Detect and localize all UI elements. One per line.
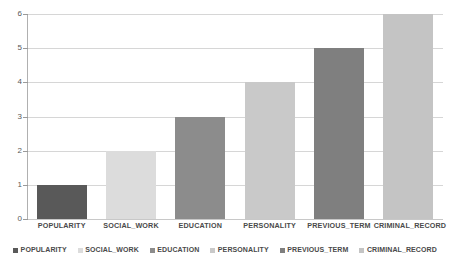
y-tick-label-5: 5 [2, 44, 22, 52]
legend-label: PERSONALITY [218, 246, 269, 254]
x-tick-label-criminal-record: CRIMINAL_RECORD [374, 221, 443, 231]
x-tick-label-social-work: SOCIAL_WORK [96, 221, 165, 231]
bar-social-work[interactable] [106, 151, 156, 219]
bar-popularity[interactable] [37, 185, 87, 219]
legend-item-popularity[interactable]: POPULARITY [13, 246, 67, 254]
y-tick-mark-5 [23, 48, 28, 49]
legend-swatch-icon [78, 248, 83, 253]
bar-previous-term[interactable] [314, 48, 364, 219]
legend-item-criminal-record[interactable]: CRIMINAL_RECORD [359, 246, 436, 254]
legend-item-social-work[interactable]: SOCIAL_WORK [78, 246, 139, 254]
legend-item-education[interactable]: EDUCATION [150, 246, 200, 254]
bar-criminal-record[interactable] [383, 14, 433, 219]
x-tick-label-popularity: POPULARITY [27, 221, 96, 231]
y-tick-mark-2 [23, 151, 28, 152]
y-axis-tick-labels: 0123456 [0, 0, 22, 267]
legend-swatch-icon [359, 248, 364, 253]
y-tick-label-0: 0 [2, 215, 22, 223]
bar-personality[interactable] [245, 82, 295, 219]
y-tick-mark-6 [23, 14, 28, 15]
legend-label: SOCIAL_WORK [85, 246, 139, 254]
legend-item-previous-term[interactable]: PREVIOUS_TERM [280, 246, 349, 254]
legend-label: EDUCATION [157, 246, 199, 254]
y-tick-mark-4 [23, 82, 28, 83]
y-tick-mark-3 [23, 117, 28, 118]
bar-chart: 0123456 POPULARITYSOCIAL_WORKEDUCATIONPE… [0, 0, 450, 267]
y-tick-mark-1 [23, 185, 28, 186]
y-tick-label-4: 4 [2, 78, 22, 86]
legend-swatch-icon [150, 248, 155, 253]
y-tick-label-3: 3 [2, 113, 22, 121]
chart-legend: POPULARITYSOCIAL_WORKEDUCATIONPERSONALIT… [0, 243, 450, 257]
x-tick-label-education: EDUCATION [166, 221, 235, 231]
y-tick-label-2: 2 [2, 147, 22, 155]
legend-item-personality[interactable]: PERSONALITY [210, 246, 268, 254]
y-tick-mark-0 [23, 219, 28, 220]
legend-swatch-icon [13, 248, 18, 253]
x-tick-label-previous-term: PREVIOUS_TERM [304, 221, 373, 231]
bar-education[interactable] [175, 117, 225, 220]
y-tick-label-1: 1 [2, 181, 22, 189]
bars-layer [27, 14, 443, 219]
legend-label: PREVIOUS_TERM [287, 246, 348, 254]
gridline-0 [27, 219, 443, 220]
legend-label: CRIMINAL_RECORD [367, 246, 437, 254]
x-axis-tick-labels: POPULARITYSOCIAL_WORKEDUCATIONPERSONALIT… [27, 221, 443, 235]
legend-swatch-icon [210, 248, 215, 253]
x-tick-label-personality: PERSONALITY [235, 221, 304, 231]
y-tick-label-6: 6 [2, 10, 22, 18]
legend-label: POPULARITY [21, 246, 67, 254]
legend-swatch-icon [280, 248, 285, 253]
